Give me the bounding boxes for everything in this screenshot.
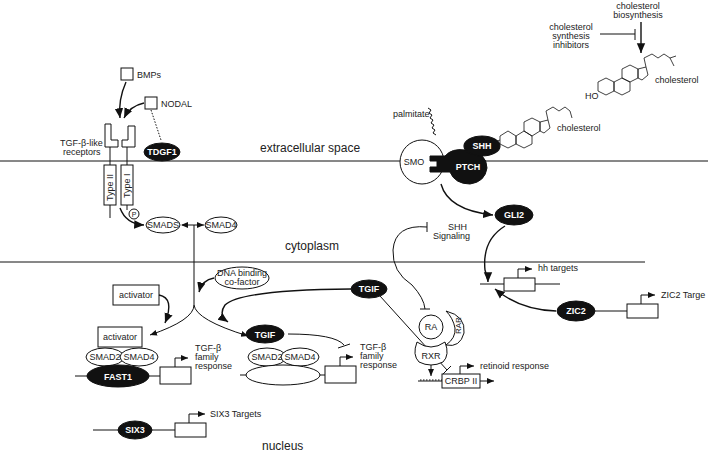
svg-text:cholesterol: cholesterol xyxy=(655,75,699,85)
extracellular-label: extracellular space xyxy=(260,141,360,155)
activator-bottom: activator xyxy=(98,327,142,347)
svg-text:BMPs: BMPs xyxy=(137,70,162,80)
svg-text:SMAD2: SMAD2 xyxy=(251,352,282,362)
svg-text:activator: activator xyxy=(119,290,153,300)
svg-text:NODAL: NODAL xyxy=(161,99,192,109)
svg-text:SIX3: SIX3 xyxy=(125,425,145,435)
svg-text:ZIC2 Targe: ZIC2 Targe xyxy=(661,290,705,300)
tgif-top-node: TGIF xyxy=(351,280,387,298)
svg-text:response: response xyxy=(195,361,232,371)
svg-text:PTCH: PTCH xyxy=(456,162,481,172)
svg-text:RA: RA xyxy=(425,322,438,332)
six3-target-gene xyxy=(175,423,206,437)
svg-text:ZIC2: ZIC2 xyxy=(566,306,586,316)
svg-text:SMADS: SMADS xyxy=(147,220,179,230)
rar-node: RAR xyxy=(446,311,464,346)
svg-text:GLI2: GLI2 xyxy=(504,210,524,220)
bmps-ligand: BMPs xyxy=(121,68,162,80)
svg-text:SMAD4: SMAD4 xyxy=(205,220,236,230)
activator-top: activator xyxy=(113,285,159,305)
svg-text:RXR: RXR xyxy=(421,351,441,361)
dna-cofactor-node: DNA binding co-factor xyxy=(215,267,269,289)
svg-text:Signaling: Signaling xyxy=(433,231,470,241)
svg-text:hh targets: hh targets xyxy=(538,263,579,273)
svg-text:palmitate: palmitate xyxy=(393,109,430,119)
tdgf1-node: TDGF1 xyxy=(144,143,180,161)
svg-text:CRBP II: CRBP II xyxy=(445,376,477,386)
svg-text:inhibitors: inhibitors xyxy=(553,40,590,50)
type-i-label: Type I xyxy=(122,173,132,198)
smad4-node-2: SMAD4 xyxy=(281,348,319,366)
hh-target-gene xyxy=(504,278,535,291)
svg-text:TDGF1: TDGF1 xyxy=(147,147,177,157)
six3-node: SIX3 xyxy=(118,421,152,439)
target-gene-1 xyxy=(160,367,191,384)
svg-text:response: response xyxy=(360,360,397,370)
shh-ligand: SHH xyxy=(464,136,500,156)
svg-text:retinoid response: retinoid response xyxy=(480,361,549,371)
nucleus-label: nucleus xyxy=(262,439,303,453)
svg-text:HO: HO xyxy=(585,91,599,101)
target-gene-2 xyxy=(325,366,356,383)
type-ii-label: Type II xyxy=(105,174,115,201)
smad2-node-2: SMAD2 xyxy=(248,348,286,366)
gli2-node: GLI2 xyxy=(495,205,533,225)
dna-binding-factor xyxy=(246,365,320,385)
rxr-node: RXR xyxy=(415,342,447,365)
crbp-ii-gene: CRBP II xyxy=(442,374,480,388)
svg-text:co-factor: co-factor xyxy=(224,277,259,287)
fast1-node: FAST1 xyxy=(87,365,149,387)
palmitate-chain xyxy=(428,108,436,135)
zic2-node: ZIC2 xyxy=(557,301,595,321)
svg-text:SMAD2: SMAD2 xyxy=(89,352,120,362)
receptors-label-2: receptors xyxy=(63,147,101,157)
cytoplasm-label: cytoplasm xyxy=(285,239,339,253)
svg-text:activator: activator xyxy=(103,332,137,342)
smads-node: SMADS xyxy=(146,217,180,233)
zic2-target-gene xyxy=(627,304,658,318)
svg-text:SHH: SHH xyxy=(472,141,491,151)
nodal-ligand: NODAL xyxy=(145,97,192,109)
svg-text:P: P xyxy=(132,211,137,218)
svg-text:cholesterol: cholesterol xyxy=(557,123,601,133)
svg-text:TGIF: TGIF xyxy=(359,284,380,294)
smad4-node: SMAD4 xyxy=(205,217,237,233)
svg-text:FAST1: FAST1 xyxy=(104,372,132,382)
svg-text:SMAD4: SMAD4 xyxy=(284,352,315,362)
svg-text:SMAD4: SMAD4 xyxy=(123,352,154,362)
smad2-node-1: SMAD2 xyxy=(86,348,124,366)
svg-text:TGIF: TGIF xyxy=(255,330,276,340)
pathway-diagram: extracellular space cytoplasm nucleus BM… xyxy=(0,0,708,454)
svg-text:SMO: SMO xyxy=(404,157,425,167)
svg-text:RAR: RAR xyxy=(454,317,463,334)
smad4-node-1: SMAD4 xyxy=(120,348,158,366)
svg-text:biosynthesis: biosynthesis xyxy=(613,10,663,20)
ra-node: RA xyxy=(419,315,443,339)
svg-text:SIX3 Targets: SIX3 Targets xyxy=(210,409,262,419)
tgif-bottom-node: TGIF xyxy=(246,325,284,343)
